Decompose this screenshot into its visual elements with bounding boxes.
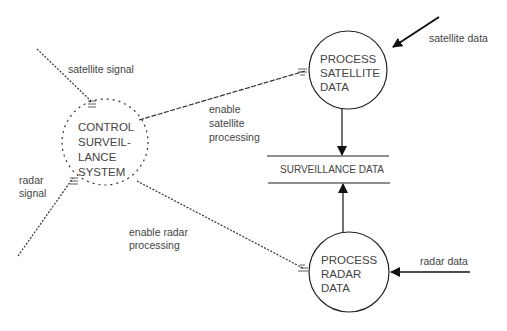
radar-process-label: PROCESS RADAR DATA bbox=[321, 254, 380, 294]
store-label: SURVEILLANCE DATA bbox=[280, 164, 384, 175]
control-process-label: CONTROL SURVEIL- LANCE SYSTEM bbox=[78, 121, 137, 178]
process-satellite-data[interactable]: PROCESS SATELLITE DATA bbox=[309, 31, 387, 109]
satellite-process-label: PROCESS SATELLITE DATA bbox=[320, 53, 383, 93]
flow-satellite-signal bbox=[37, 49, 96, 107]
process-control-surveillance-system[interactable]: CONTROL SURVEIL- LANCE SYSTEM bbox=[62, 99, 148, 185]
data-store-surveillance-data[interactable]: SURVEILLANCE DATA bbox=[267, 156, 390, 183]
label-radar-data: radar data bbox=[420, 255, 468, 267]
data-flow-diagram: CONTROL SURVEIL- LANCE SYSTEM PROCESS SA… bbox=[0, 0, 507, 331]
label-enable-satellite-processing: enable satellite processing bbox=[209, 103, 260, 143]
double-arrow-icon bbox=[70, 178, 78, 184]
double-arrow-icon bbox=[298, 69, 307, 75]
process-radar-data[interactable]: PROCESS RADAR DATA bbox=[309, 232, 389, 312]
label-satellite-data: satellite data bbox=[429, 32, 488, 44]
label-enable-radar-processing: enable radar processing bbox=[129, 226, 191, 251]
label-satellite-signal: satellite signal bbox=[68, 63, 134, 75]
label-radar-signal: radar signal bbox=[19, 174, 46, 199]
